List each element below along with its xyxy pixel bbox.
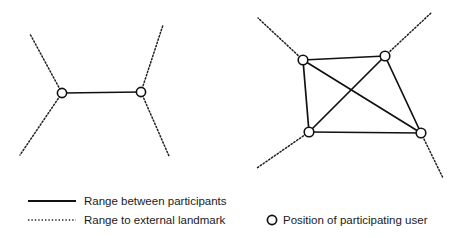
landmark-ray bbox=[385, 13, 431, 56]
landmark-ray bbox=[141, 92, 169, 156]
participant-node bbox=[304, 127, 314, 137]
landmark-ray-group bbox=[257, 13, 443, 178]
range-link bbox=[303, 56, 385, 60]
landmark-ray bbox=[258, 18, 303, 60]
legend: Range between participants Range to exte… bbox=[28, 195, 428, 226]
range-link bbox=[309, 132, 421, 133]
participant-node bbox=[380, 51, 390, 61]
four-participant-diagram bbox=[257, 13, 443, 178]
landmark-ray bbox=[20, 93, 62, 155]
landmark-ray bbox=[30, 34, 62, 93]
landmark-ray bbox=[421, 133, 443, 178]
legend-item-label: Range between participants bbox=[84, 195, 227, 207]
landmark-ray bbox=[141, 25, 163, 92]
participant-node bbox=[298, 55, 308, 65]
two-participant-diagram bbox=[20, 25, 169, 156]
landmark-ray bbox=[257, 132, 309, 168]
range-link-group bbox=[303, 56, 421, 133]
range-link bbox=[62, 92, 141, 93]
landmark-ray-group bbox=[20, 25, 169, 156]
legend-item-label: Range to external landmark bbox=[84, 214, 226, 226]
range-link bbox=[309, 56, 385, 132]
circle-marker-icon bbox=[267, 215, 276, 224]
range-link-group bbox=[62, 92, 141, 93]
legend-item-position-of-participating-user: Position of participating user bbox=[267, 214, 427, 226]
legend-item-range-between-participants: Range between participants bbox=[28, 195, 227, 207]
legend-item-range-to-external-landmark: Range to external landmark bbox=[28, 214, 226, 226]
participant-node bbox=[416, 128, 426, 138]
participant-node bbox=[136, 87, 145, 96]
ranging-topology-figure: Range between participants Range to exte… bbox=[0, 0, 453, 238]
participant-node bbox=[57, 88, 66, 97]
legend-item-label: Position of participating user bbox=[283, 214, 428, 226]
range-link bbox=[303, 60, 309, 132]
